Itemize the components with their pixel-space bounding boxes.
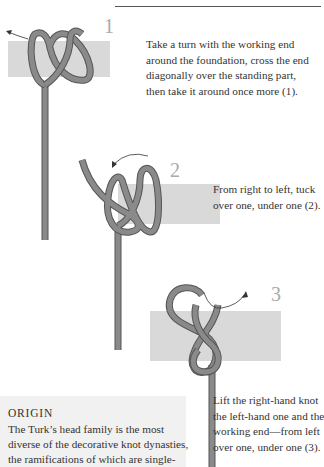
text-line: The Turk’s head family is the most [8,422,188,437]
step-number: 3 [271,283,281,306]
text-line: the ramifications of which are single- [8,452,188,467]
step-1-illustration [6,30,110,240]
text-line: over one, under one (2). [213,198,320,214]
step-2-description: From right to left, tuck over one, under… [213,182,320,213]
origin-title: ORIGIN [8,407,53,419]
step-number: 1 [104,15,114,38]
text-line: the left-hand one and the [213,409,324,425]
step-3-description: Lift the right-hand knot the left-hand o… [213,393,324,455]
text-line: over one, under one (3). [213,440,324,456]
text-line: around the foundation, cross the end [146,53,309,69]
origin-body: The Turk’s head family is the most diver… [8,422,188,467]
step-number: 2 [170,159,180,182]
text-line: working end—from left [213,424,324,440]
text-line: Take a turn with the working end [146,37,309,53]
text-line: diagonally over the standing part, [146,68,309,84]
text-line: From right to left, tuck [213,182,320,198]
origin-sidebar: ORIGIN The Turk’s head family is the mos… [0,396,186,467]
step-1-description: Take a turn with the working end around … [146,37,309,99]
text-line: diverse of the decorative knot dynasties… [8,437,188,452]
text-line: Lift the right-hand knot [213,393,324,409]
text-line: then take it around once more (1). [146,84,309,100]
